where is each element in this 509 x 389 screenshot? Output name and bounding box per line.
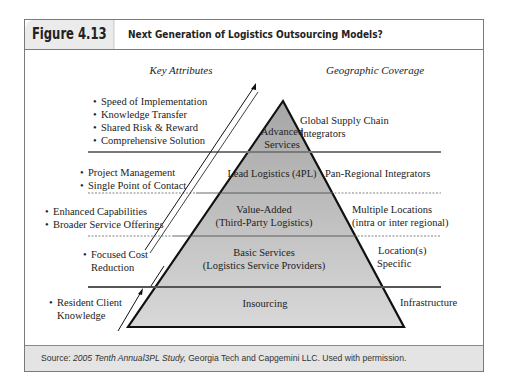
attribute-bullet: •	[80, 180, 84, 191]
attribute-item: Focused Cost	[91, 249, 148, 260]
right-column-heading: Geographic Coverage	[326, 64, 424, 76]
pyramid-diagram: Key Attributes Geographic Coverage Advan…	[0, 0, 509, 389]
attribute-list: • Project Management • Single Point of C…	[80, 167, 186, 191]
attribute-bullet: •	[49, 297, 53, 308]
attribute-item: Shared Risk & Reward	[101, 122, 199, 133]
coverage-label: (intra or inter regional)	[352, 217, 449, 229]
attribute-bullet: •	[83, 249, 87, 260]
attribute-list: • Focused Cost Reduction	[83, 249, 148, 273]
attribute-bullet: •	[93, 135, 97, 146]
attribute-item: Reduction	[91, 262, 135, 273]
attribute-item: Knowledge Transfer	[101, 109, 188, 120]
attribute-bullet: •	[93, 109, 97, 120]
attribute-item: Knowledge	[57, 310, 106, 321]
attribute-item: Enhanced Capabilities	[53, 206, 147, 217]
attribute-item: Comprehensive Solution	[101, 135, 206, 146]
tier-name: Value-Added	[236, 204, 292, 215]
attribute-item: Project Management	[88, 167, 175, 178]
tier-name: Services	[264, 139, 300, 150]
tier-name: (Third-Party Logistics)	[215, 217, 313, 229]
coverage-label: Infrastructure	[400, 297, 457, 308]
arrow-head-icon	[251, 83, 256, 90]
coverage-label: Pan-Regional Integrators	[325, 168, 430, 179]
coverage-label: Multiple Locations	[352, 204, 432, 215]
attribute-list: • Enhanced Capabilities • Broader Servic…	[45, 206, 164, 230]
attribute-bullet: •	[93, 122, 97, 133]
coverage-label: Integrators	[300, 128, 345, 139]
attribute-item: Speed of Implementation	[101, 96, 208, 107]
attribute-item: Broader Service Offerings	[53, 219, 164, 230]
attribute-item: Single Point of Contact	[88, 180, 186, 191]
tier-name: (Logistics Service Providers)	[203, 260, 326, 272]
tier-name: Advanced	[261, 126, 304, 137]
attribute-bullet: •	[45, 219, 49, 230]
coverage-label: Global Supply Chain	[300, 115, 389, 126]
tier-name: Lead Logistics (4PL)	[227, 168, 317, 180]
attribute-list: • Speed of Implementation • Knowledge Tr…	[93, 96, 208, 146]
tier-name: Insourcing	[243, 298, 289, 309]
arrow-head-icon	[138, 288, 143, 295]
attribute-bullet: •	[93, 96, 97, 107]
attribute-bullet: •	[80, 167, 84, 178]
attribute-bullet: •	[45, 206, 49, 217]
coverage-label: Location(s)	[378, 245, 427, 257]
attribute-item: Resident Client	[57, 297, 122, 308]
coverage-label: Specific	[377, 258, 412, 269]
left-column-heading: Key Attributes	[148, 64, 212, 76]
tier-name: Basic Services	[233, 247, 295, 258]
attribute-list: • Resident Client Knowledge	[49, 297, 122, 321]
